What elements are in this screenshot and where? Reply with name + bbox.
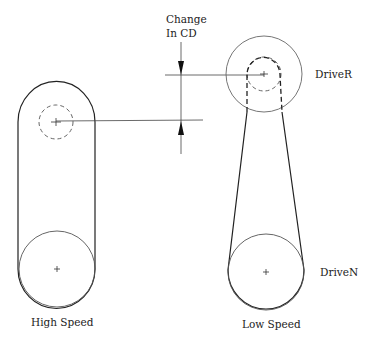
driven-label: DriveN [320,266,358,278]
high-speed-belt [18,81,95,308]
high-speed-label: High Speed [31,316,94,328]
low-speed-belt-dashed [247,57,282,112]
change-label-line1: Change [166,13,207,25]
driver-label: DriveR [315,68,353,80]
arrow-down-icon [178,61,184,75]
low-speed-belt [228,112,304,309]
belt-drive-diagram: Change In CD DriveR DriveN High Speed Lo… [0,0,366,342]
high-speed-assembly [18,81,95,308]
change-in-cd-dimension: Change In CD [165,13,264,154]
low-speed-label: Low Speed [242,318,301,330]
change-label-line2: In CD [166,27,197,39]
low-speed-assembly [226,36,304,310]
arrow-up-icon [178,121,184,135]
